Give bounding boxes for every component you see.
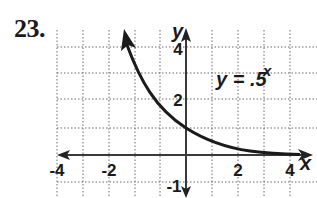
x-tick-4: 4 [285,161,295,180]
graph: -4 -2 2 4 4 2 -1 x y y = .5 x [0,0,317,198]
y-tick-2: 2 [173,91,182,110]
exponential-curve [127,45,300,154]
x-axis-label: x [299,152,312,174]
equation-base: y = .5 [215,68,267,90]
equation-label: y = .5 x [215,62,272,90]
x-tick-2: 2 [233,161,242,180]
equation-exponent: x [262,62,272,79]
x-tick-neg2: -2 [101,161,116,180]
y-axis-label: y [171,20,184,42]
y-tick-neg1: -1 [166,177,181,196]
y-tick-4: 4 [173,40,183,59]
x-tick-neg4: -4 [49,161,65,180]
